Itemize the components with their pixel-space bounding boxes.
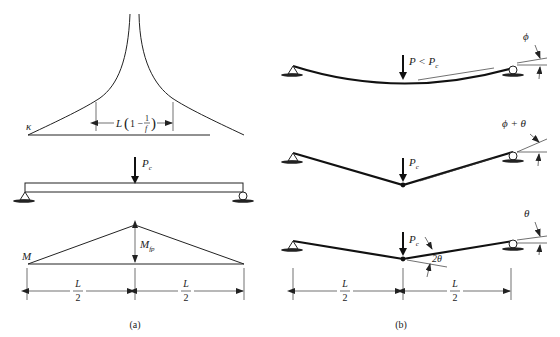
angle-label: ϕ + θ (502, 117, 527, 129)
curvature-label: κ (26, 120, 32, 132)
plastic-hinge-icon (401, 183, 406, 188)
caption-b: (b) (395, 319, 407, 331)
load-label: Pc (141, 157, 153, 172)
moment-label: M (21, 250, 32, 262)
beam-diagram: Pc (13, 157, 254, 203)
roller-support-ground (232, 199, 254, 203)
roller-support-icon (509, 66, 517, 74)
panel-b-dimensions: L 2 L 2 (293, 268, 511, 304)
plastic-hinge-icon (401, 257, 406, 262)
case-3-mechanism: Pc 2θ θ (281, 207, 547, 277)
svg-text:(: ( (124, 115, 129, 132)
case-2-hinge-forming: Pc ϕ + θ (281, 117, 547, 187)
svg-text:1 −: 1 − (130, 118, 144, 129)
svg-text:L: L (182, 278, 189, 289)
plastic-hinge-diagram: κ L ( 1 − 1 f ) Pc (0, 0, 560, 337)
panel-a-dimensions: L 2 L 2 (27, 268, 244, 304)
moment-triangle (28, 225, 244, 264)
load-arrow-icon (399, 248, 407, 256)
svg-text:L: L (115, 117, 122, 129)
beam (25, 183, 243, 192)
curvature-diagram: κ L ( 1 − 1 f ) (26, 14, 244, 135)
roller-support-icon (239, 192, 247, 200)
roller-support-icon (509, 152, 517, 160)
svg-text:L: L (74, 278, 81, 289)
load-label: P < Pc (408, 55, 439, 70)
load-arrow-icon (399, 72, 407, 80)
angle-label: ϕ (523, 30, 529, 42)
svg-text:1: 1 (145, 114, 149, 123)
panel-b: P < Pc ϕ Pc ϕ + θ (281, 30, 547, 331)
caption-a: (a) (129, 319, 140, 331)
svg-text:2: 2 (453, 292, 458, 303)
panel-a: κ L ( 1 − 1 f ) Pc (13, 14, 254, 331)
tangent-line (420, 158, 494, 181)
pin-support-ground (13, 199, 35, 203)
svg-text:2: 2 (184, 292, 189, 303)
tangent-line (418, 68, 494, 80)
curvature-curve-left (28, 14, 130, 135)
moment-peak-label: Mfp (139, 238, 155, 253)
svg-text:2: 2 (76, 292, 81, 303)
case-1-elastic: P < Pc ϕ (281, 30, 547, 84)
load-label: Pc (408, 233, 420, 248)
span-label: L ( 1 − 1 f ) (115, 114, 156, 133)
moment-diagram: M Mfp (21, 225, 244, 264)
svg-text:f: f (145, 124, 149, 133)
angle-label: θ (524, 207, 530, 219)
load-label: Pc (408, 156, 420, 171)
load-arrow-icon (399, 174, 407, 182)
pin-support-icon (20, 192, 30, 200)
hinge-angle-label: 2θ (432, 253, 442, 264)
roller-support-icon (509, 240, 517, 248)
svg-text:L: L (341, 278, 348, 289)
svg-text:2: 2 (343, 292, 348, 303)
svg-text:L: L (451, 278, 458, 289)
svg-text:): ) (151, 115, 156, 132)
